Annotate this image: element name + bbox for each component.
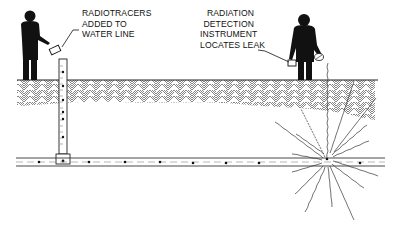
person-right-icon	[289, 14, 322, 80]
label-line: INSTRUMENT	[200, 29, 254, 40]
label-line: WATER LINE	[82, 29, 151, 40]
label-line: LOCATES LEAK	[200, 40, 254, 51]
label-radiation-detection: RADIATION DETECTION INSTRUMENT LOCATES L…	[200, 8, 254, 50]
leader-line-right	[258, 50, 289, 62]
riser-pipe	[56, 59, 70, 164]
label-radiotracers: RADIOTRACERS ADDED TO WATER LINE	[82, 8, 151, 40]
water-pipe	[16, 158, 385, 166]
diagram-canvas	[0, 0, 398, 226]
tracer-container-icon	[49, 45, 61, 55]
person-left-icon	[21, 11, 50, 81]
leader-line-left	[62, 30, 79, 47]
label-line: DETECTION	[200, 19, 254, 30]
label-line: RADIOTRACERS	[82, 8, 151, 19]
soil-layer	[17, 80, 378, 120]
label-line: RADIATION	[200, 8, 254, 19]
label-line: ADDED TO	[82, 19, 151, 30]
